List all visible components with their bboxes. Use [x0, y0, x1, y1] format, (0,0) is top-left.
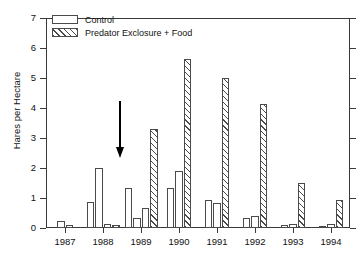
open-bar-swatch-icon [52, 15, 78, 24]
bar-predator-exclosure-food [222, 78, 230, 228]
bar-control [95, 168, 103, 228]
bar-control [251, 216, 259, 228]
bar-control [243, 218, 251, 229]
y-axis-tick [40, 228, 46, 229]
bar-predator-exclosure-food [150, 129, 158, 228]
y-axis-tick-label: 0 [12, 223, 36, 233]
bar-control [133, 218, 141, 228]
x-axis-tick [65, 228, 66, 233]
bar-control [175, 171, 183, 228]
y-axis-tick-right [350, 108, 356, 109]
bar-predator-exclosure-food [184, 59, 192, 229]
bar-control [87, 202, 95, 228]
x-axis-tick [141, 228, 142, 233]
bar-control [142, 208, 150, 228]
x-axis-tick [217, 228, 218, 233]
y-axis-tick-label: 3 [12, 133, 36, 143]
y-axis-tick-label: 5 [12, 73, 36, 83]
bar-predator-exclosure-food [298, 183, 306, 228]
x-axis-tick [255, 228, 256, 233]
bar-control [289, 224, 297, 229]
bar-control [57, 221, 65, 228]
y-axis-tick-label: 7 [12, 13, 36, 23]
legend-item-label: Control [85, 15, 114, 25]
y-axis-tick-right [350, 228, 356, 229]
x-axis-tick [331, 228, 332, 233]
x-axis-tick [179, 228, 180, 233]
bar-predator-exclosure-food [260, 104, 268, 229]
y-axis-tick-label: 2 [12, 163, 36, 173]
y-axis-tick-right [350, 198, 356, 199]
legend-item-predator-exclosure-food: Predator Exclosure + Food [52, 27, 192, 38]
bar-predator-exclosure-food [336, 200, 344, 229]
y-axis-tick-label: 4 [12, 103, 36, 113]
bar-control [213, 203, 221, 229]
y-axis-tick-label: 1 [12, 193, 36, 203]
bar-control [167, 188, 175, 229]
bar-control [66, 225, 74, 228]
y-axis-tick-right [350, 48, 356, 49]
legend-item-label: Predator Exclosure + Food [85, 28, 192, 38]
y-axis-tick [40, 138, 46, 139]
y-axis-tick-right [350, 18, 356, 19]
bar-control [327, 224, 335, 229]
y-axis-tick [40, 168, 46, 169]
treatment-start-arrow-icon [116, 101, 125, 158]
legend: Control Predator Exclosure + Food [52, 14, 192, 40]
hares-per-hectare-bar-chart: Hares per Hectare 01234567 1987198819891… [0, 0, 359, 255]
bar-control [205, 200, 213, 229]
y-axis-tick [40, 198, 46, 199]
x-axis-tick [103, 228, 104, 233]
y-axis-tick [40, 48, 46, 49]
bar-control [281, 225, 289, 228]
y-axis-tick-label: 6 [12, 43, 36, 53]
bar-control [104, 224, 112, 229]
x-axis-tick-label: 1994 [308, 236, 354, 247]
arrow-shaft [119, 101, 121, 148]
y-axis-tick [40, 18, 46, 19]
bar-predator-exclosure-food [112, 225, 120, 228]
y-axis-tick-right [350, 78, 356, 79]
y-axis-tick-right [350, 138, 356, 139]
bar-control [125, 188, 133, 229]
hatched-bar-swatch-icon [52, 28, 78, 37]
legend-item-control: Control [52, 14, 192, 25]
y-axis-tick [40, 108, 46, 109]
x-axis-tick [293, 228, 294, 233]
arrow-head [116, 147, 124, 158]
bar-control [319, 226, 327, 228]
y-axis-tick-right [350, 168, 356, 169]
y-axis-tick [40, 78, 46, 79]
